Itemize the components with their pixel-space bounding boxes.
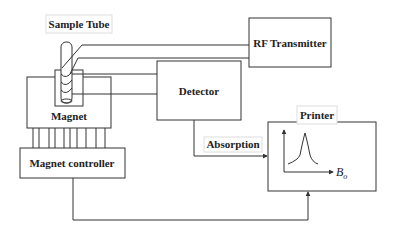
svg-text:RF Transmitter: RF Transmitter [253,37,327,49]
svg-text:Sample Tube: Sample Tube [49,18,110,30]
svg-text:Magnet: Magnet [51,110,87,122]
svg-text:Absorption: Absorption [206,138,259,150]
detector: Detector [157,61,241,120]
sample-tube-label: Sample Tube [46,15,112,33]
nmr-block-diagram: Sample Tube Magnet RF Transmitter Detect… [0,0,395,232]
rf-transmitter: RF Transmitter [249,18,331,67]
svg-text:Magnet controller: Magnet controller [29,157,114,169]
magnet-controller: Magnet controller [20,148,125,178]
printer-label: Printer [297,106,337,124]
svg-text:Detector: Detector [179,85,219,97]
absorption-label: Absorption [204,137,262,152]
magnet-coils [33,128,105,148]
svg-text:Printer: Printer [300,109,334,121]
